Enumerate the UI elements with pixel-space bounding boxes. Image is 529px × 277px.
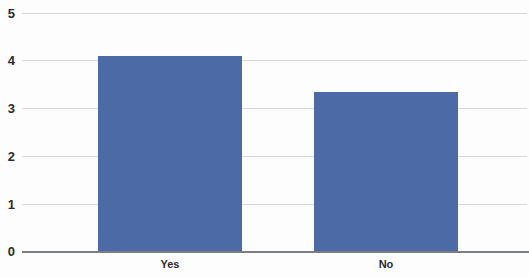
bar-yes[interactable] [98, 56, 242, 251]
x-tick-label-no: No [314, 258, 458, 271]
bar-chart: 5 4 3 2 1 0 Yes No [0, 0, 529, 277]
plot-area [0, 0, 529, 277]
y-tick-label-5: 5 [0, 7, 15, 20]
y-tick-label-3: 3 [0, 102, 15, 115]
y-tick-label-0: 0 [0, 245, 15, 258]
y-tick-label-4: 4 [0, 54, 15, 67]
x-axis-line [22, 251, 529, 253]
y-tick-label-1: 1 [0, 198, 15, 211]
x-tick-label-yes: Yes [98, 258, 242, 271]
y-tick-label-2: 2 [0, 150, 15, 163]
bar-no[interactable] [314, 92, 458, 251]
gridline-5 [22, 13, 527, 14]
